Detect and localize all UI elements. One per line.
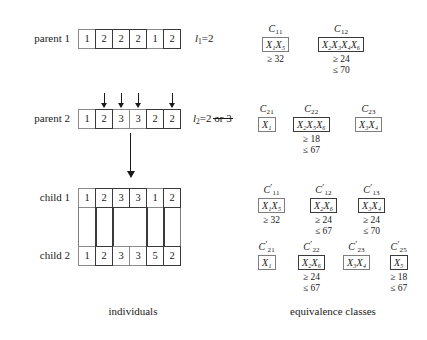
- segment-connector: [78, 207, 79, 247]
- segment-connector: [146, 207, 148, 247]
- segment-connector: [112, 207, 114, 247]
- gene-cell: 1: [78, 29, 96, 49]
- gene-cell: 3: [129, 246, 147, 266]
- lower-bound: ≥ 18: [390, 272, 408, 283]
- equivalence-class-members: X₃X₄: [343, 255, 370, 270]
- equivalence-class: C′11X₁X₅≥ 32: [258, 183, 285, 226]
- equivalence-class-name: C23: [355, 104, 382, 116]
- crossover-point-arrow: [172, 93, 173, 107]
- lower-bound: ≥ 18: [293, 134, 330, 145]
- equivalence-class-bounds: ≥ 32: [262, 54, 289, 65]
- length-label-l2: l2=2 or 3: [193, 112, 232, 126]
- equivalence-class: C′23X₃X₄: [343, 240, 370, 270]
- equivalence-class-bounds: ≥ 18≤ 67: [390, 272, 408, 294]
- equivalence-class: C23X₃X₄: [355, 104, 382, 132]
- equivalence-class-name: C12: [318, 24, 364, 36]
- equivalence-class-members: X₂X₆: [298, 255, 325, 270]
- equivalence-class-members: X₁X₅: [262, 37, 289, 52]
- lower-bound: ≥ 24: [310, 215, 337, 226]
- equivalence-class-name: C′13: [358, 183, 385, 197]
- equivalence-class: C′21X₁: [258, 240, 276, 270]
- row-label-child-2: child 2: [8, 249, 70, 261]
- equivalence-class: C′22X₂X₆≥ 24≤ 67: [298, 240, 325, 294]
- segment-connector: [163, 207, 165, 247]
- equivalence-class-bounds: ≥ 32: [258, 215, 285, 226]
- equivalence-class-members: X₂X₆: [310, 198, 337, 213]
- length-label-l1: l1=2: [195, 32, 214, 46]
- gene-cell: 2: [163, 109, 181, 129]
- gene-cell: 1: [146, 188, 164, 208]
- gene-cell: 3: [129, 109, 147, 129]
- segment-connector: [95, 207, 97, 247]
- equivalence-class: C′25X₅≥ 18≤ 67: [390, 240, 408, 294]
- upper-bound: ≤ 67: [390, 283, 408, 294]
- upper-bound: ≤ 70: [318, 65, 364, 76]
- gene-cell: 3: [129, 188, 147, 208]
- gene-cell: 2: [95, 188, 113, 208]
- chromosome-parent-1: 122212: [78, 29, 181, 49]
- gene-cell: 1: [78, 188, 96, 208]
- l1-subscript: 1: [198, 37, 202, 46]
- upper-bound: ≤ 70: [358, 226, 385, 237]
- chromosome-child-1: 123312: [78, 188, 181, 208]
- equivalence-class: C11X₁X₅≥ 32: [262, 24, 289, 65]
- equivalence-class-name: C′21: [258, 240, 276, 254]
- upper-bound: ≤ 67: [298, 283, 325, 294]
- gene-cell: 2: [95, 109, 113, 129]
- equivalence-class-bounds: ≥ 24≤ 70: [318, 54, 364, 76]
- equivalence-class: C′12X₂X₆≥ 24≤ 67: [310, 183, 337, 237]
- equivalence-class-bounds: ≥ 18≤ 67: [293, 134, 330, 156]
- chromosome-parent-2: 123322: [78, 109, 181, 129]
- gene-cell: 2: [95, 246, 113, 266]
- equivalence-class-name: C′22: [298, 240, 325, 254]
- equivalence-class-members: X₂X₃X₄X₆: [318, 37, 364, 52]
- equivalence-class-bounds: ≥ 24≤ 67: [310, 215, 337, 237]
- row-label-child-1: child 1: [8, 191, 70, 203]
- crossover-point-arrow: [138, 93, 139, 107]
- l2-alt-value-struck: or 3: [214, 112, 231, 124]
- crossover-point-arrow: [104, 93, 105, 107]
- lower-bound: ≥ 24: [298, 272, 325, 283]
- equivalence-class-name: C′12: [310, 183, 337, 197]
- crossover-point-arrow: [121, 93, 122, 107]
- equivalence-class-members: X₁X₅: [258, 198, 285, 213]
- lower-bound: ≥ 24: [358, 215, 385, 226]
- lower-bound: ≥ 24: [318, 54, 364, 65]
- caption-equivalence-classes: equivalence classes: [268, 305, 398, 317]
- gene-cell: 2: [112, 29, 130, 49]
- lower-bound: ≥ 32: [258, 215, 285, 226]
- gene-cell: 2: [95, 29, 113, 49]
- row-label-parent-2: parent 2: [8, 112, 70, 124]
- equivalence-class-members: X₁: [258, 255, 276, 270]
- crossover-flow-arrow: [130, 133, 131, 177]
- gene-cell: 3: [112, 188, 130, 208]
- gene-cell: 1: [78, 109, 96, 129]
- equivalence-class-name: C′11: [258, 183, 285, 197]
- equivalence-class-name: C′25: [390, 240, 408, 254]
- gene-cell: 2: [146, 109, 164, 129]
- upper-bound: ≤ 67: [293, 145, 330, 156]
- equivalence-class-members: X₃X₄: [358, 198, 385, 213]
- equivalence-class: C′13X₃X₄≥ 24≤ 70: [358, 183, 385, 237]
- gene-cell: 2: [129, 29, 147, 49]
- gene-cell: 2: [163, 188, 181, 208]
- equivalence-class: C22X₂X₅X₆≥ 18≤ 67: [293, 104, 330, 156]
- gene-cell: 1: [78, 246, 96, 266]
- equivalence-class-members: X₅: [390, 255, 408, 270]
- l2-value: 2: [206, 112, 212, 124]
- equivalence-class-members: X₃X₄: [355, 117, 382, 132]
- equivalence-class: C12X₂X₃X₄X₆≥ 24≤ 70: [318, 24, 364, 76]
- equivalence-class-members: X₁: [258, 117, 276, 132]
- equivalence-class-name: C′23: [343, 240, 370, 254]
- segment-connector: [180, 207, 181, 247]
- equivalence-class-name: C22: [293, 104, 330, 116]
- equivalence-class-bounds: ≥ 24≤ 70: [358, 215, 385, 237]
- equivalence-class: C21X₁: [258, 104, 276, 132]
- l1-value: 2: [208, 32, 214, 44]
- caption-individuals: individuals: [78, 305, 188, 317]
- upper-bound: ≤ 67: [310, 226, 337, 237]
- equivalence-class-name: C11: [262, 24, 289, 36]
- chromosome-child-2: 123352: [78, 246, 181, 266]
- gene-cell: 5: [146, 246, 164, 266]
- row-label-parent-1: parent 1: [8, 32, 70, 44]
